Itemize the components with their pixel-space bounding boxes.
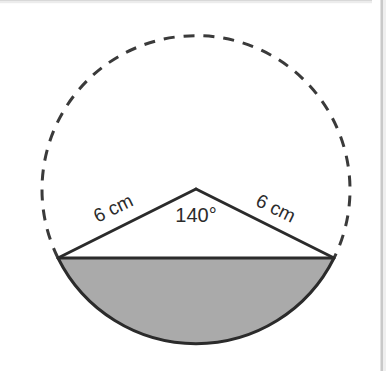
figure-canvas: 6 cm 6 cm 140° [0, 0, 388, 371]
shaded-segment-region [58, 258, 334, 344]
sector-angle-label: 140° [175, 204, 216, 226]
circle-sector-diagram: 6 cm 6 cm 140° [0, 0, 388, 371]
